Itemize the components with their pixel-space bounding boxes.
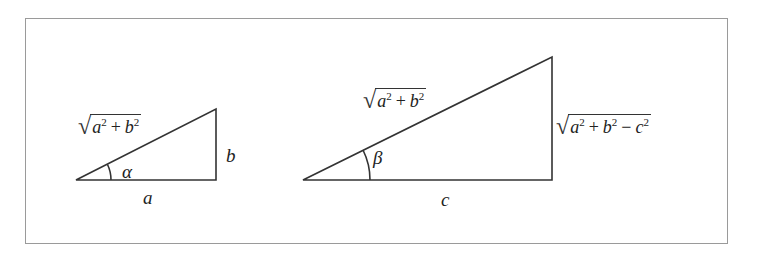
term-b: b	[410, 91, 419, 111]
exponent: 2	[386, 90, 392, 102]
plus-operator: +	[107, 117, 125, 137]
term-b: b	[125, 117, 134, 137]
small-base-label: a	[143, 188, 153, 207]
radicand: a2+b2	[375, 88, 426, 112]
term-a: a	[92, 117, 101, 137]
small-hypotenuse-label: √ a2+b2	[78, 114, 141, 138]
exponent: 2	[643, 116, 649, 128]
radicand: a2+b2	[90, 114, 141, 138]
plus-operator: +	[392, 91, 410, 111]
exponent: 2	[579, 116, 585, 128]
term-a: a	[377, 91, 386, 111]
angle-alpha-label: α	[122, 162, 132, 181]
angle-beta-arc	[363, 150, 370, 180]
minus-operator: −	[617, 117, 635, 137]
angle-alpha-arc	[108, 165, 112, 181]
term-a: a	[570, 117, 579, 137]
exponent: 2	[419, 90, 425, 102]
exponent: 2	[101, 116, 107, 128]
large-base-label: c	[441, 190, 449, 209]
large-triangle	[303, 57, 552, 180]
large-height-label: √ a2+b2−c2	[556, 114, 651, 138]
plus-operator: +	[585, 117, 603, 137]
radicand: a2+b2−c2	[568, 114, 651, 138]
exponent: 2	[134, 116, 140, 128]
angle-beta-label: β	[373, 148, 382, 167]
term-b: b	[603, 117, 612, 137]
small-height-label: b	[226, 146, 236, 165]
large-hypotenuse-label: √ a2+b2	[363, 88, 426, 112]
